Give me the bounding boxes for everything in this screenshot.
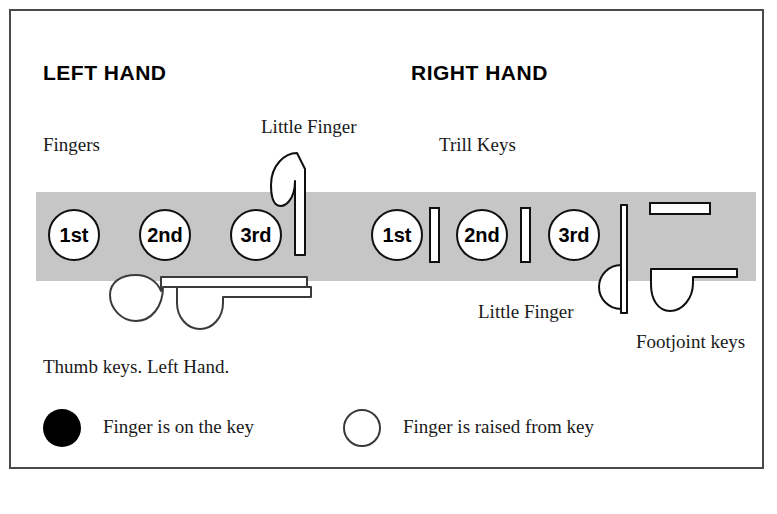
right-key-3rd[interactable]: 3rd <box>548 209 600 261</box>
footjoint-keys-label: Footjoint keys <box>636 329 746 355</box>
right-little-finger-key <box>595 203 641 315</box>
flute-fingering-diagram: LEFT HAND RIGHT HAND Fingers Little Fing… <box>0 0 777 514</box>
left-hand-heading: LEFT HAND <box>43 61 167 85</box>
right-key-2nd[interactable]: 2nd <box>456 209 508 261</box>
left-key-3rd-label: 3rd <box>240 225 271 245</box>
legend-text-raised: Finger is raised from key <box>403 416 594 438</box>
thumb-key-halfdisc <box>171 285 316 333</box>
trill-keys-label: Trill Keys <box>439 134 516 156</box>
right-key-1st-label: 1st <box>383 225 412 245</box>
right-key-2nd-label: 2nd <box>464 225 500 245</box>
little-finger-left-label: Little Finger <box>261 116 357 138</box>
left-key-3rd[interactable]: 3rd <box>230 209 282 261</box>
little-finger-right-label: Little Finger <box>478 301 574 323</box>
left-key-1st[interactable]: 1st <box>48 209 100 261</box>
right-key-3rd-label: 3rd <box>558 225 589 245</box>
legend-marker-filled <box>43 409 81 447</box>
legend-marker-open <box>343 409 381 447</box>
footjoint-rect-key[interactable] <box>649 202 711 215</box>
legend-text-on-key: Finger is on the key <box>103 416 254 438</box>
trill-key-2[interactable] <box>520 207 531 263</box>
footjoint-lever-key <box>649 265 741 323</box>
thumb-keys-label: Thumb keys. Left Hand. <box>43 356 229 378</box>
left-key-2nd-label: 2nd <box>147 225 183 245</box>
trill-key-1[interactable] <box>429 207 440 263</box>
fingers-label: Fingers <box>43 134 100 156</box>
right-key-1st[interactable]: 1st <box>371 209 423 261</box>
left-key-2nd[interactable]: 2nd <box>139 209 191 261</box>
left-key-1st-label: 1st <box>60 225 89 245</box>
diagram-frame: LEFT HAND RIGHT HAND Fingers Little Fing… <box>9 9 764 469</box>
right-hand-heading: RIGHT HAND <box>411 61 548 85</box>
